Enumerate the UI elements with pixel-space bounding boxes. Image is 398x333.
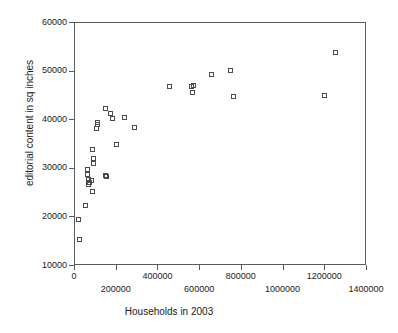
data-point: [122, 115, 127, 120]
y-tick-mark: [69, 168, 74, 169]
x-tick-label: 400000: [142, 272, 172, 281]
data-point: [85, 167, 90, 172]
data-point: [91, 156, 96, 161]
x-tick-mark: [366, 265, 367, 270]
data-point: [94, 126, 99, 131]
data-point: [114, 142, 119, 147]
data-point: [333, 50, 338, 55]
data-point: [322, 93, 327, 98]
y-axis-title: editorial content in sq inches: [25, 33, 35, 213]
y-tick-label: 60000: [42, 18, 67, 27]
data-point: [191, 83, 196, 88]
data-point: [104, 174, 109, 179]
x-tick-label: 1200000: [307, 272, 342, 281]
data-point: [231, 94, 236, 99]
data-point: [95, 120, 100, 125]
x-tick-label: 800000: [226, 272, 256, 281]
data-point: [190, 90, 195, 95]
y-tick-mark: [69, 22, 74, 23]
data-point: [110, 116, 115, 121]
x-tick-mark: [157, 265, 158, 270]
data-point: [132, 125, 137, 130]
x-tick-label: 1000000: [265, 285, 300, 294]
y-tick-label: 50000: [42, 66, 67, 75]
data-point: [167, 84, 172, 89]
y-tick-label: 10000: [42, 261, 67, 270]
plot-area: [74, 22, 366, 265]
data-point: [89, 178, 94, 183]
x-tick-label: 0: [71, 272, 76, 281]
x-tick-label: 200000: [101, 285, 131, 294]
data-point: [103, 106, 108, 111]
y-tick-mark: [69, 119, 74, 120]
y-tick-label: 30000: [42, 163, 67, 172]
x-tick-mark: [199, 265, 200, 270]
x-tick-label: 600000: [184, 285, 214, 294]
y-tick-mark: [69, 71, 74, 72]
data-point: [77, 237, 82, 242]
data-point: [90, 147, 95, 152]
data-point: [209, 72, 214, 77]
x-tick-mark: [324, 265, 325, 270]
x-tick-mark: [283, 265, 284, 270]
data-points-layer: [75, 23, 365, 264]
x-tick-mark: [241, 265, 242, 270]
y-tick-label: 20000: [42, 212, 67, 221]
scatter-chart-figure: 100002000030000400005000060000 020000040…: [0, 0, 398, 333]
data-point: [91, 161, 96, 166]
y-tick-label: 40000: [42, 115, 67, 124]
x-tick-label: 1400000: [348, 285, 383, 294]
data-point: [83, 203, 88, 208]
x-tick-mark: [74, 265, 75, 270]
data-point: [228, 68, 233, 73]
x-tick-mark: [116, 265, 117, 270]
data-point: [90, 189, 95, 194]
x-axis-title: Households in 2003: [74, 307, 264, 317]
data-point: [76, 217, 81, 222]
y-tick-mark: [69, 216, 74, 217]
